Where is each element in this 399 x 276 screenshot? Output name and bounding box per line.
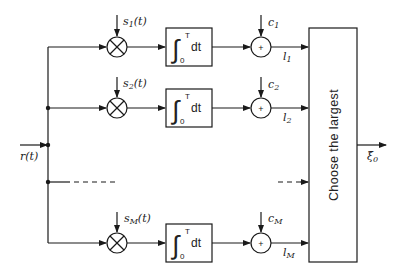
svg-text:+: + (258, 239, 263, 249)
output-decision-label: ξ̂0 (367, 150, 378, 164)
decision-label: Choose the largest (327, 89, 341, 201)
output-label: lM (283, 246, 296, 260)
correlation-receiver-diagram: r(t) s1(t) ∫ T 0 dt c1 + (0, 0, 399, 276)
bias-label: c1 (268, 16, 279, 30)
svg-text:0: 0 (180, 252, 185, 261)
svg-text:dt: dt (191, 101, 202, 115)
output-label: l2 (283, 111, 292, 125)
svg-text:T: T (185, 31, 190, 40)
junction-dot (46, 143, 50, 147)
branch-m: sM(t) ∫ T 0 dt cM + lM (48, 212, 308, 262)
decision-block: Choose the largest (309, 28, 357, 262)
svg-text:dt: dt (191, 236, 202, 250)
svg-text:T: T (185, 92, 190, 101)
multiplier-icon (107, 98, 127, 118)
output-label: l1 (283, 50, 292, 64)
signal-label: s2(t) (123, 77, 147, 91)
input-signal: r(t) (20, 145, 47, 163)
branch-2: s2(t) ∫ T 0 dt c2 + l2 (48, 77, 308, 127)
svg-text:+: + (258, 43, 263, 53)
adder-icon: + (251, 233, 271, 253)
output-signal: ξ̂0 (357, 145, 386, 164)
svg-text:+: + (258, 104, 263, 114)
integrator-block: ∫ T 0 dt (166, 89, 212, 127)
input-label: r(t) (20, 150, 38, 163)
integrator-block: ∫ T 0 dt (166, 28, 212, 66)
signal-label: s1(t) (123, 15, 147, 29)
adder-icon: + (251, 37, 271, 57)
multiplier-icon (107, 37, 127, 57)
distribution-bus (46, 47, 50, 243)
svg-text:dt: dt (191, 40, 202, 54)
svg-text:T: T (185, 227, 190, 236)
multiplier-icon (107, 233, 127, 253)
adder-icon: + (251, 98, 271, 118)
bias-label: cM (268, 212, 283, 226)
branch-1: s1(t) ∫ T 0 dt c1 + l1 (48, 15, 308, 66)
svg-text:0: 0 (180, 117, 185, 126)
svg-text:0: 0 (180, 56, 185, 65)
bias-label: c2 (268, 78, 279, 92)
integrator-block: ∫ T 0 dt (166, 224, 212, 262)
signal-label: sM(t) (124, 212, 151, 226)
